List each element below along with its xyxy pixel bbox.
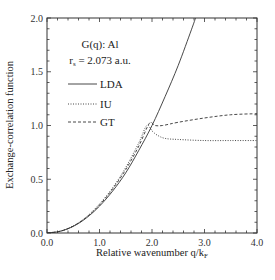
y-tick-label: 1.5 — [31, 66, 44, 77]
y-axis-label: Exchange-correlation function — [4, 60, 15, 189]
series-iu-line — [47, 125, 257, 233]
legend-label-gt: GT — [100, 116, 115, 128]
legend-label-lda: LDA — [100, 78, 123, 90]
y-tick-label: 1.0 — [31, 120, 44, 131]
x-tick-label: 0.0 — [41, 237, 54, 248]
series-lda-line — [47, 18, 196, 233]
plot-area — [47, 18, 257, 233]
chart: 0.01.02.03.04.0 0.00.51.01.52.0 Relative… — [0, 0, 275, 280]
x-axis-label: Relative wavenumber q/kF — [96, 247, 208, 260]
legend-label-iu: IU — [100, 98, 112, 110]
annotation-title: G(q): Al — [82, 38, 119, 51]
legend: LDAIUGT — [68, 78, 123, 128]
annotation-rs: rs = 2.073 a.u. — [69, 54, 131, 68]
y-tick-label: 0.0 — [31, 228, 44, 239]
x-tick-label: 4.0 — [251, 237, 264, 248]
y-tick-label: 0.5 — [31, 174, 44, 185]
y-tick-label: 2.0 — [31, 13, 44, 24]
series-gt-line — [47, 114, 257, 233]
y-tick-labels: 0.00.51.01.52.0 — [31, 13, 44, 239]
